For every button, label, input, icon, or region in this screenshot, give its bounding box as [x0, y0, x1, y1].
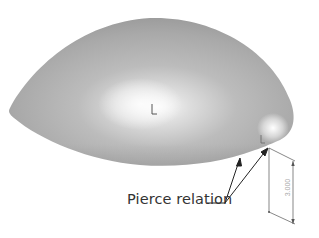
dimension-value: 3.000 [284, 179, 291, 197]
arrowhead-icon [291, 161, 294, 166]
edge-highlight [257, 113, 289, 143]
center-highlight [98, 78, 182, 130]
pierce-relation-label: Pierce relation [127, 191, 232, 207]
arrowhead-icon [237, 158, 242, 166]
